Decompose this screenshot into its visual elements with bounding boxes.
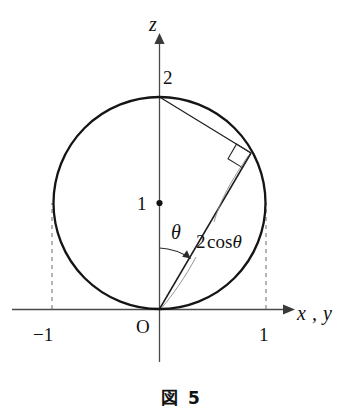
angle-label: θ	[171, 222, 181, 242]
length-leader-lower	[162, 257, 197, 308]
right-tick-label: 1	[259, 325, 269, 344]
x-y-axis-arrowhead	[283, 304, 295, 314]
geometry-diagram	[0, 0, 363, 413]
chord-length-coefficient: 2	[196, 231, 206, 252]
right-angle-marker	[228, 144, 251, 168]
z-axis-label: z	[149, 14, 157, 34]
x-y-axis-label: x , y	[297, 303, 332, 323]
figure-caption: 図 5	[0, 384, 363, 409]
top-value-label: 2	[163, 68, 173, 87]
left-tick-label: −1	[33, 325, 53, 344]
figure-container: z x , y 2 1 O −1 1 θ 2 cosθ 図 5	[0, 0, 363, 413]
chord-length-variable: θ	[232, 231, 241, 252]
origin-label: O	[136, 317, 150, 336]
chord-length-label: 2 cosθ	[196, 232, 242, 251]
center-point-marker	[156, 200, 162, 206]
center-value-label: 1	[137, 194, 147, 213]
angle-arc-group	[160, 248, 191, 259]
chord-length-function: cos	[207, 231, 232, 252]
chord-group	[160, 97, 252, 309]
